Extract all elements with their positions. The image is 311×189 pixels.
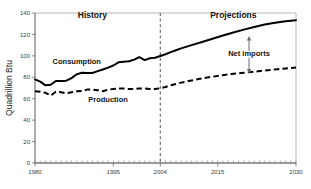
y-tick-label: 140 xyxy=(20,10,31,16)
y-tick-label: 120 xyxy=(20,32,31,38)
history-label: History xyxy=(78,10,108,20)
chart-figure: 020406080100120140 19801995200420152030 … xyxy=(0,0,311,189)
x-tick-label: 2004 xyxy=(154,169,168,175)
y-tick-label: 0 xyxy=(27,160,31,166)
projections-label: Projections xyxy=(210,10,257,20)
x-axis-ticks: 19801995200420152030 xyxy=(28,163,303,175)
net-imports-label: Net imports xyxy=(228,49,270,58)
y-axis-ticks: 020406080100120140 xyxy=(20,10,35,166)
consumption-series-label: Consumption xyxy=(53,57,102,66)
plot-frame xyxy=(35,13,296,163)
x-tick-label: 1980 xyxy=(28,169,42,175)
energy-consumption-production-chart: 020406080100120140 19801995200420152030 … xyxy=(0,0,311,189)
x-tick-label: 2015 xyxy=(211,169,225,175)
y-tick-label: 100 xyxy=(20,53,31,59)
y-tick-label: 60 xyxy=(23,96,30,102)
y-tick-label: 20 xyxy=(23,139,30,145)
y-axis-title: Quadrillion Btu xyxy=(4,60,14,116)
x-tick-label: 1995 xyxy=(107,169,121,175)
y-tick-label: 80 xyxy=(23,74,30,80)
axes xyxy=(35,13,296,163)
production-line xyxy=(35,67,296,95)
production-series-label: Production xyxy=(88,95,128,104)
y-tick-label: 40 xyxy=(23,117,30,123)
x-tick-label: 2030 xyxy=(289,169,303,175)
